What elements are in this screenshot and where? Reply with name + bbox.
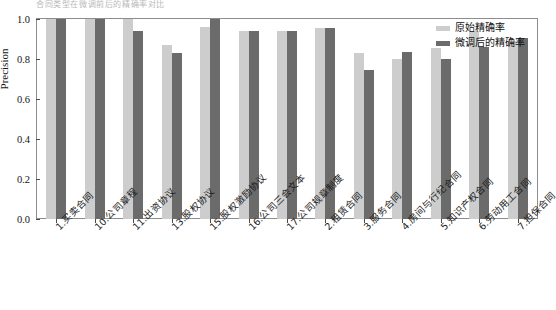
y-axis-title-wrap: Precision	[0, 18, 20, 219]
legend: 原始精确率微调后的精确率	[436, 22, 548, 52]
cropped-page-text: 合同类型在微调前后的精确率对比	[36, 0, 326, 9]
bar-finetuned	[56, 19, 66, 219]
legend-swatch	[436, 26, 450, 31]
y-axis-title: Precision	[0, 24, 10, 114]
legend-item: 原始精确率	[436, 22, 548, 34]
bar-chart-figure: 合同类型在微调前后的精确率对比 0.00.20.40.60.81.0 Preci…	[0, 0, 556, 310]
legend-swatch	[436, 41, 450, 46]
legend-item: 微调后的精确率	[436, 37, 548, 49]
bar-original	[46, 19, 56, 219]
legend-label: 原始精确率	[455, 22, 505, 34]
x-axis-tick-labels: 1.买卖合同10.公司章程11.出资协议13.股权协议15.股权激励协议16.公…	[0, 223, 556, 310]
bar-finetuned	[95, 19, 105, 219]
bar-finetuned	[402, 52, 412, 219]
bar-finetuned	[364, 70, 374, 219]
bar-group	[46, 19, 66, 219]
legend-label: 微调后的精确率	[455, 37, 525, 49]
